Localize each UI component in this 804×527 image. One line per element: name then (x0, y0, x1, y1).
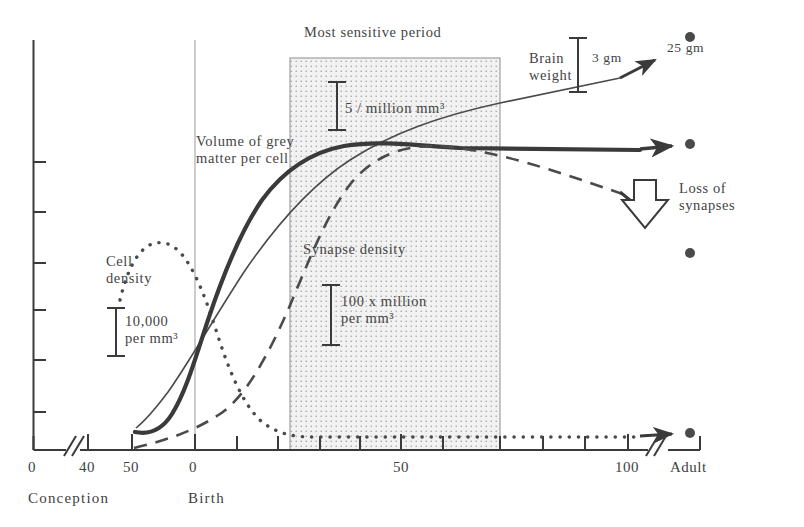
x-tick-label-100: 100 (615, 459, 639, 476)
axis-break-adult (646, 436, 666, 456)
cell-density-end-arrow (640, 434, 672, 436)
x-tick-label-0-conception: 0 (28, 459, 36, 476)
scale-bar-cell-density (107, 308, 125, 356)
grey-matter-end-arrow (640, 146, 672, 149)
axis-caption-conception: Conception (28, 490, 109, 507)
loss-of-synapses-arrow (622, 180, 668, 228)
axis-break-prenatal (64, 436, 84, 456)
axis-caption-birth: Birth (188, 490, 225, 507)
most-sensitive-period-label: Most sensitive period (304, 24, 441, 41)
chart-figure: Most sensitive period Brain weight 3 gm … (0, 0, 804, 527)
grey-matter-label: Volume of grey matter per cell (196, 133, 294, 167)
x-tick-label-adult: Adult (670, 459, 707, 476)
cell-density-scale-label: 10,000 per mm³ (125, 313, 178, 347)
brain-weight-endpoint-label: 25 gm (667, 40, 704, 56)
brain-weight-scale-label: 3 gm (592, 50, 622, 66)
grey-matter-endpoint-dot (685, 139, 695, 149)
synapse-density-label: Synapse density (303, 241, 406, 258)
synapse-density-endpoint-dot (685, 248, 695, 258)
loss-of-synapses-label: Loss of synapses (679, 180, 735, 214)
y-axis-ticks (34, 162, 46, 412)
x-tick-label-50-postnatal: 50 (393, 459, 409, 476)
cell-density-label: Cell density (106, 253, 152, 287)
brain-weight-end-arrow (620, 60, 655, 78)
x-tick-label-0-birth: 0 (189, 459, 197, 476)
grey-matter-scale-label: 5 / million mm³ (345, 100, 445, 117)
cell-density-endpoint-dot (685, 428, 695, 438)
synapse-scale-label: 100 x million per mm³ (341, 293, 427, 327)
x-tick-label-50-prenatal: 50 (123, 459, 139, 476)
x-tick-label-40: 40 (79, 459, 95, 476)
brain-weight-label: Brain weight (529, 50, 572, 84)
